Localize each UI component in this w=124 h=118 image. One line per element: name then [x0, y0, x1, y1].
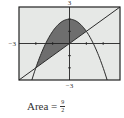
- area-fraction: 9 2: [60, 99, 65, 113]
- y-min-label: −3: [66, 82, 74, 90]
- area-text: Area =: [27, 100, 57, 112]
- fraction-numerator: 9: [61, 99, 64, 105]
- area-annotation: Area = 9 2: [27, 99, 65, 113]
- fraction-denominator: 2: [61, 107, 64, 113]
- x-min-label: −3: [9, 40, 17, 48]
- y-max-label: 3: [68, 0, 72, 7]
